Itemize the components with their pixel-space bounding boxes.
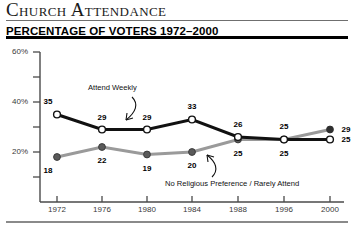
- x-axis-label-1972: 1972: [40, 205, 74, 214]
- annotation-arrow-none: [207, 155, 216, 177]
- data-label-dark-1972: 35: [38, 97, 58, 106]
- data-label-gray-1988: 25: [228, 149, 248, 158]
- x-axis-label-1980: 1980: [130, 205, 164, 214]
- annotation-attend-weekly: Attend Weekly: [88, 83, 137, 92]
- data-label-gray-1976: 22: [92, 156, 112, 165]
- data-label-dark-1996: 25: [274, 122, 294, 131]
- data-label-gray-1996: 25: [274, 149, 294, 158]
- footer-divider: [6, 221, 348, 223]
- annotation-arrow-weekly: [126, 97, 136, 120]
- data-label-dark-1980: 29: [137, 113, 157, 122]
- plot-area: 60% 40% 20% 1972 1976 1980 1984 1988 199…: [0, 0, 354, 232]
- data-label-dark-1976: 29: [92, 113, 112, 122]
- data-label-dark-2000: 25: [336, 135, 354, 144]
- x-tick-marks: [57, 196, 330, 202]
- data-label-gray-1980: 19: [137, 164, 157, 173]
- data-label-gray-1984: 20: [182, 161, 202, 170]
- chart-figure: Church Attendance PERCENTAGE OF VOTERS 1…: [0, 0, 354, 232]
- y-axis-label-20: 20%: [6, 147, 28, 156]
- x-axis-label-1984: 1984: [175, 205, 209, 214]
- x-axis-label-1988: 1988: [221, 205, 255, 214]
- x-axis-label-1976: 1976: [85, 205, 119, 214]
- x-axis-label-2000: 2000: [313, 205, 347, 214]
- data-label-gray-2000: 29: [336, 125, 354, 134]
- y-axis-label-40: 40%: [6, 97, 28, 106]
- data-label-gray-1972: 18: [38, 166, 58, 175]
- data-label-dark-1988: 26: [228, 120, 248, 129]
- data-label-dark-1984: 33: [182, 102, 202, 111]
- chart-svg: [0, 0, 354, 232]
- annotation-no-religious-preference: No Religious Preference / Rarely Attend: [165, 179, 299, 188]
- y-tick-marks: [33, 52, 40, 177]
- y-axis-label-60: 60%: [6, 47, 28, 56]
- x-axis-label-1996: 1996: [267, 205, 301, 214]
